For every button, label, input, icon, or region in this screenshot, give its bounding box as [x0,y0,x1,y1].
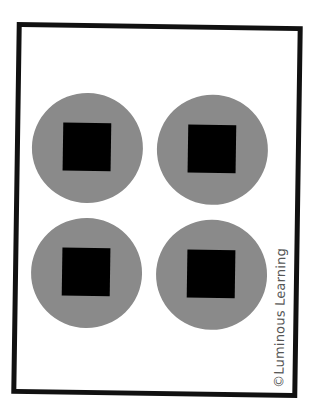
circle-top-right [156,94,269,206]
square-top-left [63,123,112,172]
circle-top-left [31,92,144,204]
circle-bottom-left [30,217,143,329]
square-top-right [188,124,237,173]
square-bottom-right [187,249,236,298]
copyright-credit: ©Luminous Learning [271,238,289,388]
circle-bottom-right [155,219,268,331]
square-bottom-left [62,248,111,297]
picture-card: ©Luminous Learning [11,22,302,398]
